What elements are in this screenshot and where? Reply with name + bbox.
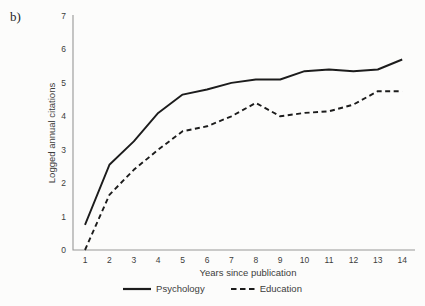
x-tick-label: 14	[397, 255, 407, 265]
x-axis-label: Years since publication	[200, 267, 297, 278]
x-tick-label: 13	[373, 255, 383, 265]
legend-item-education: Education	[231, 283, 302, 294]
x-tick-label: 4	[156, 255, 161, 265]
series-line-psychology	[85, 60, 402, 225]
x-tick-label: 5	[180, 255, 185, 265]
x-tick-label: 2	[107, 255, 112, 265]
y-axis-label: Logged annual citations	[46, 83, 57, 183]
figure-panel-b: b) 123456789101112131401234567 Logged an…	[0, 0, 425, 306]
x-tick-label: 8	[253, 255, 258, 265]
y-tick-label: 5	[61, 78, 66, 88]
x-tick-label: 9	[278, 255, 283, 265]
y-tick-label: 2	[61, 178, 66, 188]
x-tick-label: 10	[300, 255, 310, 265]
solid-line-icon	[123, 287, 151, 291]
chart-canvas: 123456789101112131401234567	[0, 0, 425, 306]
dashed-line-icon	[231, 287, 255, 291]
y-tick-label: 0	[61, 245, 66, 255]
x-tick-label: 3	[131, 255, 136, 265]
legend-label-psychology: Psychology	[156, 283, 205, 294]
x-tick-label: 11	[325, 255, 334, 265]
axes-spines	[73, 15, 415, 250]
x-tick-label: 6	[205, 255, 210, 265]
legend-label-education: Education	[260, 283, 302, 294]
x-tick-label: 7	[229, 255, 234, 265]
x-tick-label: 12	[349, 255, 359, 265]
x-tick-label: 1	[83, 255, 88, 265]
legend: Psychology Education	[0, 283, 425, 294]
y-tick-label: 4	[61, 111, 66, 121]
y-tick-label: 1	[61, 212, 66, 222]
y-tick-label: 3	[61, 145, 66, 155]
series-line-education	[85, 91, 402, 250]
y-tick-label: 6	[61, 44, 66, 54]
y-tick-label: 7	[61, 11, 66, 21]
legend-item-psychology: Psychology	[123, 283, 205, 294]
